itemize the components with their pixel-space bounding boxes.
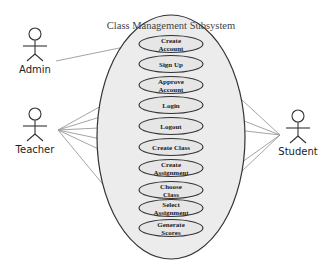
- system-title: Class Management Subsystem: [107, 20, 235, 31]
- actor-right-leg: [35, 134, 43, 141]
- use-case-label: Create: [161, 37, 181, 45]
- use-case-select-assignment: SelectAssignment: [139, 200, 203, 217]
- use-case-label: Account: [159, 45, 185, 53]
- use-case-choose-class: ChooseClass: [139, 182, 203, 199]
- use-case-create-assignment: CreateAssignment: [139, 160, 203, 177]
- actor-teacher: Teacher: [15, 108, 56, 155]
- use-case-label: Choose: [160, 183, 182, 191]
- use-case-approve-account: ApproveAccount: [139, 77, 203, 94]
- use-case-sign-up: Sign Up: [139, 56, 203, 73]
- actor-label: Admin: [19, 64, 51, 75]
- use-case-create-class: Create Class: [139, 139, 203, 156]
- use-case-create-account: CreateAccount: [139, 36, 203, 53]
- use-case-label: Assignment: [153, 209, 189, 217]
- actor-label: Teacher: [15, 144, 56, 155]
- use-case-label: Create Class: [152, 144, 190, 152]
- actor-right-leg: [35, 54, 43, 61]
- actor-admin: Admin: [19, 28, 51, 75]
- use-case-label: Sign Up: [159, 61, 183, 69]
- use-case-label: Select: [162, 201, 180, 209]
- actor-left-leg: [27, 54, 35, 61]
- actor-head-icon: [29, 28, 41, 40]
- actor-head-icon: [29, 108, 41, 120]
- use-case-label: Login: [162, 102, 180, 110]
- use-case-login: Login: [139, 97, 203, 114]
- use-case-generate-scores: GenerateScores: [139, 220, 203, 237]
- use-case-logout: Logout: [139, 118, 203, 135]
- actor-right-leg: [298, 136, 306, 143]
- use-case-label: Logout: [160, 123, 182, 131]
- use-case-label: Account: [159, 86, 185, 94]
- use-case-label: Scores: [161, 229, 181, 237]
- use-case-diagram: Class Management Subsystem CreateAccount…: [0, 0, 333, 272]
- use-case-label: Generate: [157, 221, 185, 229]
- actor-left-leg: [290, 136, 298, 143]
- actor-label: Student: [278, 146, 317, 157]
- actor-left-leg: [27, 134, 35, 141]
- use-case-label: Assignment: [153, 169, 189, 177]
- actor-head-icon: [292, 110, 304, 122]
- use-case-label: Create: [161, 161, 181, 169]
- actor-student: Student: [278, 110, 317, 157]
- use-case-label: Class: [163, 191, 179, 199]
- use-case-label: Approve: [158, 78, 184, 86]
